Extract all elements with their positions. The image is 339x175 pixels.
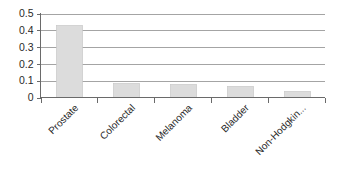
y-tick-label: 0.1 — [19, 74, 34, 86]
bar-chart: 00.10.20.30.40.5 ProstateColorectalMelan… — [0, 0, 339, 175]
chart-background — [0, 0, 339, 175]
bar-colorectal — [114, 84, 140, 98]
bar-bladder — [228, 87, 254, 98]
bar-non-hodgkin — [285, 92, 311, 98]
bar-melanoma — [171, 85, 197, 98]
y-tick-label: 0.4 — [19, 24, 34, 36]
y-tick-label: 0.2 — [19, 58, 34, 70]
y-tick-label: 0.3 — [19, 41, 34, 53]
bar-prostate — [57, 26, 83, 98]
y-tick-label: 0 — [28, 91, 34, 103]
y-tick-label: 0.5 — [19, 7, 34, 19]
chart-canvas: 00.10.20.30.40.5 ProstateColorectalMelan… — [0, 0, 339, 175]
